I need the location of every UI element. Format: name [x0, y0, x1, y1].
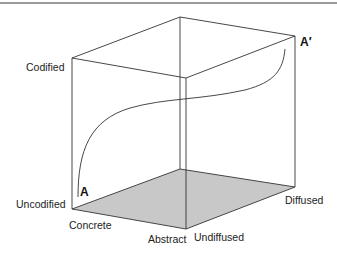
top-face — [72, 17, 295, 78]
axis-label-diffused: Diffused — [285, 194, 323, 206]
axis-label-uncodified: Uncodified — [16, 198, 66, 210]
axis-label-undiffused: Undiffused — [194, 231, 244, 243]
point-a-prime-label: A′ — [300, 35, 312, 49]
axis-label-concrete: Concrete — [69, 219, 112, 231]
cube-diagram: A A′ Codified Uncodified Concrete Abstra… — [0, 0, 337, 256]
axis-label-codified: Codified — [26, 61, 65, 73]
point-a-label: A — [80, 185, 89, 199]
axis-label-abstract: Abstract — [148, 233, 187, 245]
